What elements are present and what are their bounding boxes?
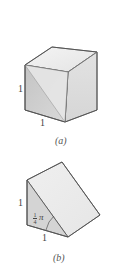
wedge-width-label: 1 [42, 233, 47, 243]
angle-pi-symbol: π [39, 213, 44, 222]
wedge-figure [27, 162, 100, 237]
angle-denominator: 4 [33, 219, 37, 225]
cube-width-label: 1 [40, 118, 45, 128]
cube-figure [25, 47, 97, 122]
cube-height-label: 1 [18, 84, 23, 94]
angle-numerator: 1 [33, 212, 37, 219]
wedge-height-label: 1 [18, 198, 23, 208]
angle-fraction: 1 4 [33, 212, 37, 225]
caption-b: (b) [53, 253, 65, 263]
caption-a: (a) [55, 136, 67, 146]
